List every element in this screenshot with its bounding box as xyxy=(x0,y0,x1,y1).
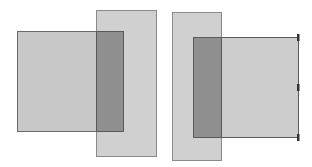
overlap-diagram xyxy=(0,0,312,167)
right-edge-handle-top[interactable] xyxy=(297,34,300,41)
right-group xyxy=(173,13,300,161)
left-overlap-region xyxy=(97,32,124,132)
left-group xyxy=(18,11,157,157)
right-overlap-region xyxy=(194,38,222,138)
right-edge-handle-bottom[interactable] xyxy=(297,134,300,141)
right-edge-handle-middle[interactable] xyxy=(297,84,300,91)
